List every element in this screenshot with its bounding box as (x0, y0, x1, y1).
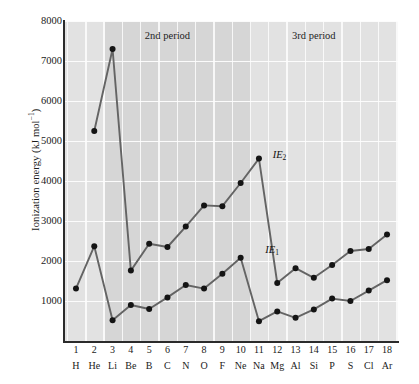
series-label-subscript: 1 (275, 248, 279, 257)
data-point (110, 46, 116, 52)
data-point (91, 128, 97, 134)
ionization-energy-chart: Ionization energy (kJ mol−1) 10002000300… (0, 0, 419, 384)
data-point (366, 288, 372, 294)
data-point (347, 298, 353, 304)
data-point (146, 241, 152, 247)
series-label-subscript: 2 (283, 153, 287, 162)
x-axis-atomic-numbers: 123456789101112131415161718 (65, 345, 398, 359)
data-point (164, 294, 170, 300)
data-point (256, 156, 262, 162)
y-tick-label: 1000 (18, 296, 62, 307)
data-point (91, 243, 97, 249)
y-tick-label: 3000 (18, 216, 62, 227)
y-tick-label: 8000 (18, 16, 62, 27)
data-point (164, 244, 170, 250)
data-point (183, 224, 189, 230)
data-point (201, 286, 207, 292)
series-label-IE1: IE1 (265, 244, 279, 255)
data-point (274, 308, 280, 314)
series-line-IE1 (76, 246, 387, 321)
data-point (311, 306, 317, 312)
data-point (128, 302, 134, 308)
y-tick-label: 4000 (18, 176, 62, 187)
data-point (293, 265, 299, 271)
x-axis-element-symbols: HHeLiBeBCNOFNeNaMgAlSiPSClAr (65, 361, 398, 375)
data-point (311, 275, 317, 281)
x-axis-line (63, 341, 399, 343)
data-point (293, 315, 299, 321)
data-point (183, 282, 189, 288)
data-point (384, 277, 390, 283)
y-axis-tick-labels: 10002000300040005000600070008000 (16, 0, 62, 384)
x-tick-element-symbol: Ar (374, 361, 400, 371)
series-line-IE2 (94, 49, 387, 283)
data-point (347, 248, 353, 254)
y-tick-label: 7000 (18, 56, 62, 67)
data-point (201, 202, 207, 208)
data-point (384, 232, 390, 238)
data-point (73, 286, 79, 292)
y-tick-label: 6000 (18, 96, 62, 107)
data-point (238, 255, 244, 261)
data-point (329, 262, 335, 268)
data-point (110, 317, 116, 323)
data-point (238, 180, 244, 186)
data-point (219, 203, 225, 209)
data-point (146, 306, 152, 312)
y-tick-label: 2000 (18, 256, 62, 267)
data-point (219, 271, 225, 277)
series-label-text: IE (273, 149, 283, 160)
series-label-text: IE (265, 244, 275, 255)
data-series-layer (65, 21, 398, 341)
data-point (128, 268, 134, 274)
data-point (366, 246, 372, 252)
plot-area: 2nd period3rd period IE1IE2 (65, 21, 398, 341)
data-point (329, 296, 335, 302)
period-label: 2nd period (145, 30, 190, 41)
data-point (274, 280, 280, 286)
y-tick-label: 5000 (18, 136, 62, 147)
x-tick-atomic-number: 18 (374, 345, 400, 355)
series-label-IE2: IE2 (273, 149, 287, 160)
data-point (256, 318, 262, 324)
period-label: 3rd period (292, 30, 335, 41)
